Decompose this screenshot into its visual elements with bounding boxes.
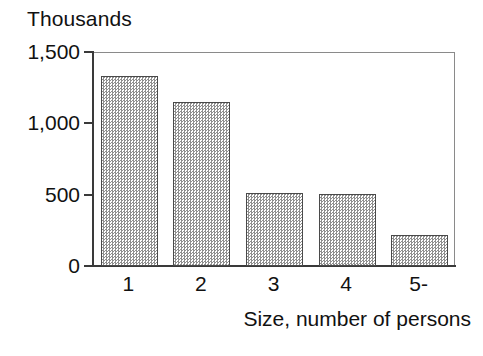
bars-layer bbox=[92, 52, 455, 266]
bar-chart-figure: Thousands 1,5001,0005000 12345- Size, nu… bbox=[0, 0, 483, 356]
x-tick-label: 1 bbox=[98, 272, 158, 296]
x-tick-label: 2 bbox=[171, 272, 231, 296]
bar bbox=[391, 235, 448, 266]
bar bbox=[319, 194, 376, 266]
x-tick-label: 4 bbox=[316, 272, 376, 296]
y-axis-unit-label: Thousands bbox=[27, 6, 132, 32]
y-tick-label: 500 bbox=[45, 184, 80, 205]
bar bbox=[246, 193, 303, 266]
bar bbox=[101, 76, 158, 266]
y-tick-label: 1,500 bbox=[27, 41, 80, 62]
x-axis-title: Size, number of persons bbox=[0, 306, 471, 332]
x-tick-label: 3 bbox=[244, 272, 304, 296]
bar bbox=[173, 102, 230, 266]
y-tick-label: 1,000 bbox=[27, 112, 80, 133]
x-tick-label: 5- bbox=[389, 272, 449, 296]
y-tick-label: 0 bbox=[68, 255, 80, 276]
